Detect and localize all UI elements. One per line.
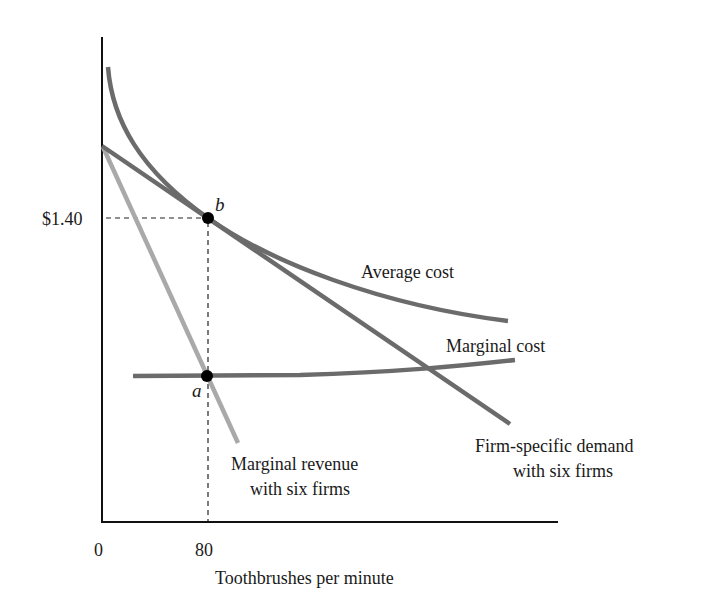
demand-label-line1: Firm-specific demand [475, 436, 633, 456]
mr-label-line2: with six firms [250, 479, 350, 499]
average-cost-label: Average cost [361, 262, 454, 282]
point-b-marker [202, 212, 214, 224]
x-tick-eighty: 80 [195, 540, 213, 560]
demand-curve [102, 146, 510, 424]
marginal-cost-label: Marginal cost [446, 336, 545, 356]
marginal-cost-curve [133, 360, 515, 376]
y-tick-price: $1.40 [42, 209, 83, 229]
demand-label-line2: with six firms [513, 461, 613, 481]
x-axis-title: Toothbrushes per minute [215, 568, 394, 588]
point-a-label: a [192, 380, 202, 401]
x-tick-zero: 0 [94, 540, 103, 560]
monopolistic-competition-chart: b a $1.40 0 80 Toothbrushes per minute A… [0, 0, 718, 609]
average-cost-curve [108, 67, 508, 321]
point-b-label: b [215, 194, 225, 215]
mr-label-line1: Marginal revenue [231, 454, 358, 474]
point-a-marker [201, 370, 213, 382]
